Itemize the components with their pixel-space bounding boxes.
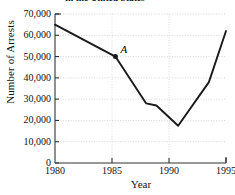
- y-tick-label: 10,000: [7, 137, 51, 147]
- y-tick-label: 70,000: [7, 9, 51, 19]
- grid-lines: [55, 14, 226, 163]
- axis-lines: [55, 14, 226, 163]
- x-tick-label: 1985: [89, 165, 135, 176]
- data-point-markers: [113, 54, 118, 59]
- x-axis-title: Year: [55, 178, 227, 190]
- axis-tick-marks: [55, 14, 226, 163]
- chart-container: in the United States Number of Arrests Y…: [0, 0, 235, 195]
- y-tick-label: 50,000: [7, 52, 51, 62]
- data-series-line: [55, 25, 226, 126]
- y-tick-label: 20,000: [7, 115, 51, 125]
- chart-title: in the United States: [30, 0, 180, 2]
- x-tick-label: 1990: [146, 165, 192, 176]
- y-tick-label: 30,000: [7, 94, 51, 104]
- x-tick-label: 1980: [32, 165, 78, 176]
- x-tick-label: 1995: [203, 165, 235, 176]
- y-tick-label: 40,000: [7, 73, 51, 83]
- y-tick-label: 60,000: [7, 30, 51, 40]
- point-label-a: A: [120, 44, 127, 55]
